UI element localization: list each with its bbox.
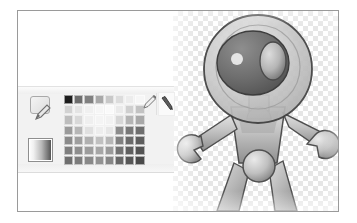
color-swatch[interactable] [125, 95, 134, 104]
color-swatch[interactable] [64, 105, 73, 114]
color-swatch[interactable] [135, 146, 144, 155]
color-swatch[interactable] [64, 146, 73, 155]
pen-icon[interactable] [159, 95, 175, 111]
swatch-grid[interactable] [64, 95, 145, 165]
claw-hand-left [177, 135, 203, 163]
color-swatch[interactable] [125, 105, 134, 114]
foreground-background-swatch[interactable] [28, 138, 53, 162]
pen-tool-group [145, 94, 173, 118]
color-swatch[interactable] [115, 156, 124, 165]
color-swatch[interactable] [95, 136, 104, 145]
color-swatch[interactable] [135, 126, 144, 135]
screenshot-root [0, 0, 357, 223]
color-swatch[interactable] [105, 126, 114, 135]
color-swatch[interactable] [84, 156, 93, 165]
color-swatch[interactable] [105, 156, 114, 165]
color-swatch[interactable] [74, 115, 83, 124]
color-palette-panel[interactable] [18, 86, 174, 173]
color-swatch[interactable] [74, 126, 83, 135]
color-swatch[interactable] [115, 136, 124, 145]
color-swatch[interactable] [74, 146, 83, 155]
shape-pencil-tool[interactable] [28, 96, 54, 120]
color-swatch[interactable] [135, 115, 144, 124]
tool-separator [156, 93, 157, 115]
color-swatch[interactable] [115, 126, 124, 135]
color-swatch[interactable] [115, 95, 124, 104]
color-swatch[interactable] [74, 156, 83, 165]
hip-sphere [243, 150, 275, 182]
color-swatch[interactable] [84, 126, 93, 135]
color-swatch[interactable] [84, 146, 93, 155]
color-swatch[interactable] [115, 146, 124, 155]
color-swatch[interactable] [84, 115, 93, 124]
tool-column [28, 96, 60, 166]
color-swatch[interactable] [95, 156, 104, 165]
color-swatch[interactable] [84, 95, 93, 104]
color-swatch[interactable] [64, 95, 73, 104]
color-swatch[interactable] [95, 126, 104, 135]
color-swatch[interactable] [125, 146, 134, 155]
color-swatch[interactable] [115, 105, 124, 114]
color-swatch[interactable] [125, 136, 134, 145]
color-swatch[interactable] [125, 126, 134, 135]
color-swatch[interactable] [95, 115, 104, 124]
color-swatch[interactable] [125, 115, 134, 124]
transparent-canvas[interactable] [173, 11, 339, 211]
color-swatch[interactable] [64, 156, 73, 165]
eye-right [260, 42, 286, 80]
eye-left [231, 53, 243, 65]
color-swatch[interactable] [64, 126, 73, 135]
color-swatch[interactable] [105, 136, 114, 145]
color-swatch[interactable] [95, 95, 104, 104]
color-swatch[interactable] [105, 95, 114, 104]
robot-astronaut-sprite[interactable] [173, 11, 339, 211]
color-swatch[interactable] [74, 95, 83, 104]
color-swatch[interactable] [95, 105, 104, 114]
color-swatch[interactable] [74, 105, 83, 114]
color-swatch[interactable] [125, 156, 134, 165]
color-swatch[interactable] [95, 146, 104, 155]
color-swatch[interactable] [84, 105, 93, 114]
color-swatch[interactable] [135, 136, 144, 145]
color-swatch[interactable] [105, 115, 114, 124]
color-swatch[interactable] [105, 105, 114, 114]
panel-top-strip [18, 87, 174, 94]
square-pencil-icon [34, 103, 52, 121]
color-swatch[interactable] [105, 146, 114, 155]
color-swatch[interactable] [64, 115, 73, 124]
figure-frame [17, 10, 339, 212]
color-swatch[interactable] [84, 136, 93, 145]
color-swatch[interactable] [64, 136, 73, 145]
color-swatch[interactable] [135, 156, 144, 165]
color-swatch[interactable] [115, 115, 124, 124]
color-swatch[interactable] [74, 136, 83, 145]
